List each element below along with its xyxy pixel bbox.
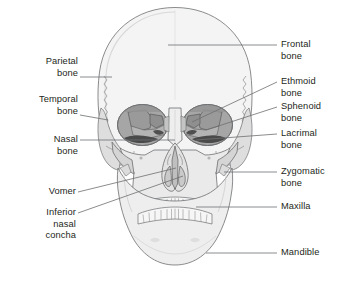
label-mandible: Mandible [281, 247, 320, 259]
lacrimal-bone-left [164, 116, 169, 132]
infraorbital-foramen-right [207, 156, 210, 159]
label-nasal-line1: Nasal [0, 134, 78, 146]
label-inferior-line3: concha [0, 230, 76, 242]
label-sphenoid-line1: Sphenoid [281, 101, 321, 113]
supraorbital-notch-right [215, 151, 217, 153]
label-zygomatic-bone: Zygomatic bone [281, 166, 325, 189]
label-lacrimal-bone: Lacrimal bone [281, 128, 317, 151]
label-frontal-line2: bone [281, 51, 311, 63]
label-ethmoid-line2: bone [281, 88, 316, 100]
label-vomer: Vomer [0, 186, 76, 198]
label-inferior-line2: nasal [0, 219, 76, 231]
infraorbital-foramen-left [139, 156, 142, 159]
label-frontal-bone: Frontal bone [281, 39, 311, 62]
label-ethmoid-bone: Ethmoid bone [281, 76, 316, 99]
label-sphenoid-bone: Sphenoid bone [281, 101, 321, 124]
label-nasal-bone: Nasal bone [0, 134, 78, 157]
label-vomer-line1: Vomer [0, 186, 76, 198]
label-zygomatic-line2: bone [281, 178, 325, 190]
label-maxilla-line1: Maxilla [281, 201, 311, 213]
label-parietal-line2: bone [0, 68, 78, 80]
label-frontal-line1: Frontal [281, 39, 311, 51]
label-temporal-bone: Temporal bone [0, 94, 78, 117]
lacrimal-bone-right [181, 116, 186, 132]
skull-illustration [78, 8, 277, 266]
supraorbital-notch-left [133, 151, 135, 153]
label-inferior-nasal-concha: Inferior nasal concha [0, 207, 76, 242]
label-mandible-line1: Mandible [281, 247, 320, 259]
label-inferior-line1: Inferior [0, 207, 76, 219]
label-parietal-bone: Parietal bone [0, 56, 78, 79]
label-lacrimal-line1: Lacrimal [281, 128, 317, 140]
label-ethmoid-line1: Ethmoid [281, 76, 316, 88]
label-temporal-line1: Temporal [0, 94, 78, 106]
label-parietal-line1: Parietal [0, 56, 78, 68]
label-nasal-line2: bone [0, 146, 78, 158]
label-lacrimal-line2: bone [281, 140, 317, 152]
label-zygomatic-line1: Zygomatic [281, 166, 325, 178]
label-temporal-line2: bone [0, 106, 78, 118]
label-sphenoid-line2: bone [281, 113, 321, 125]
label-maxilla: Maxilla [281, 201, 311, 213]
